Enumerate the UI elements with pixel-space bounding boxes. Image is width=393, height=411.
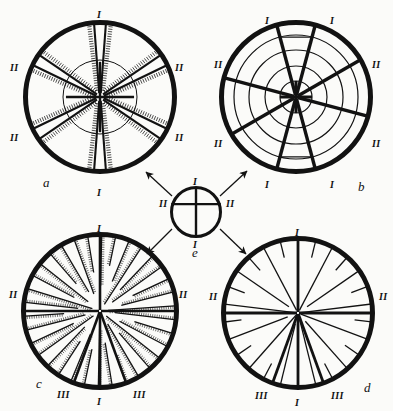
hatch-tick [90,143,94,144]
hatch-tick [91,58,95,59]
hatch-tick [91,135,95,136]
hatch-tick [91,53,95,54]
hatch-tick [89,44,93,45]
panel-b-marker-ii-4: II [214,139,222,149]
panel-a-id-label: a [43,176,50,189]
hatch-tick [95,88,99,89]
hatch-tick [94,78,98,79]
panel-c-marker-i-0: I [97,224,101,234]
panel-b-marker-ii-3: II [372,60,380,70]
panel-c-marker-iii-4: III [57,390,70,400]
panel-d-marker-iii-4: III [255,391,268,401]
hatch-tick [94,113,98,114]
hatch-tick [106,143,110,144]
hatch-tick [105,53,109,54]
hatch-tick [93,71,97,72]
panel-d-marker-ii-3: II [379,292,387,302]
anatomy-cross-section-figure [0,0,393,411]
hatch-tick [93,73,97,74]
hatch-tick [88,162,92,163]
hatch-tick [104,125,108,126]
hatch-tick [89,41,93,42]
hatch-tick [94,111,98,112]
hatch-tick [101,85,105,86]
panel-c-marker-ii-2: II [9,290,17,300]
hatch-tick [105,140,109,141]
hatch-tick [106,46,110,47]
hatch-tick [106,51,110,52]
hatch-tick [93,75,97,76]
hatch-tick [107,157,111,158]
hatch-tick [95,106,99,107]
panel-c-id-label: c [36,377,42,390]
hatch-tick [89,155,93,156]
panel-a-marker-ii-4: II [10,133,18,143]
panel-b-marker-i-1: I [330,16,334,26]
hatch-tick [91,56,95,57]
hatch-tick [101,90,105,91]
hatch-tick [92,125,96,126]
hatch-tick [91,133,95,134]
panel-b-marker-i-7: I [330,180,334,190]
hatch-tick [91,138,95,139]
hatch-tick [101,106,105,107]
hatch-tick [94,83,98,84]
hatch-tick [107,36,111,37]
hatch-tick [101,103,105,104]
hatch-tick [102,83,106,84]
hatch-tick [108,29,112,30]
hatch-tick [102,116,106,117]
panel-a-marker-ii-2: II [10,63,18,73]
hatch-tick [94,85,98,86]
hatch-tick [107,41,111,42]
hatch-tick [94,116,98,117]
panel-a-marker-ii-5: II [175,133,183,143]
hatch-tick [102,111,106,112]
panel-a-marker-i-0: I [97,10,101,20]
hatch-tick [103,123,107,124]
panel-b-marker-i-0: I [265,16,269,26]
hatch-tick [93,118,97,119]
hatch-tick [106,145,110,146]
hatch-tick [108,165,112,166]
hatch-tick [90,49,94,50]
hatch-tick [102,80,106,81]
hatch-tick [105,58,109,59]
hatch-tick [89,152,93,153]
hatch-tick [93,121,97,122]
hatch-tick [106,44,110,45]
hatch-tick [90,145,94,146]
hatch-tick [108,160,112,161]
hatch-tick [104,61,108,62]
hatch-tick [92,66,96,67]
hatch-tick [87,167,91,168]
hatch-tick [104,130,108,131]
hatch-tick [87,27,91,28]
panel-c-marker-i-1: I [97,397,101,407]
hatch-tick [91,140,95,141]
hatch-tick [88,36,92,37]
panel-d-marker-i-1: I [295,398,299,408]
hatch-tick [103,73,107,74]
hatch-tick [90,147,94,148]
hatch-tick [106,49,110,50]
hatch-tick [92,130,96,131]
panel-e-id-label: e [192,246,198,259]
hatch-tick [105,135,109,136]
hatch-tick [90,51,94,52]
panel-c-marker-ii-3: II [179,290,187,300]
hatch-tick [104,63,108,64]
hatch-tick [89,150,93,151]
panel-a-marker-ii-3: II [175,63,183,73]
hatch-tick [101,88,105,89]
hatch-tick [88,165,92,166]
hatch-tick [92,63,96,64]
panel-d-marker-iii-5: III [331,391,344,401]
hatch-tick [109,167,113,168]
hatch-tick [88,160,92,161]
hatch-tick [93,123,97,124]
hatch-tick [105,56,109,57]
hatch-tick [102,113,106,114]
hatch-tick [106,150,110,151]
hatch-tick [108,34,112,35]
